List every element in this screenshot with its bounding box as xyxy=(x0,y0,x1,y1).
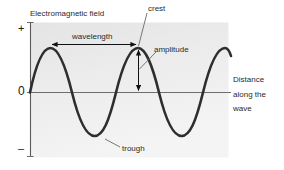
figure-title: Electromagnetic field xyxy=(30,9,104,18)
trough-label: trough xyxy=(122,144,145,153)
axis-tick-label-positive: + xyxy=(18,22,24,34)
crest-label: crest xyxy=(148,4,165,13)
axis-tick-label-zero: 0 xyxy=(18,84,25,98)
x-axis-caption: Distance along the wave xyxy=(233,73,281,117)
plot-panel xyxy=(31,23,229,158)
axis-tick-label-negative: – xyxy=(18,142,24,154)
amplitude-label: amplitude xyxy=(154,45,189,54)
wavelength-label: wavelength xyxy=(72,32,112,41)
wave-diagram: Electromagnetic field wavelength crest a… xyxy=(0,0,284,170)
